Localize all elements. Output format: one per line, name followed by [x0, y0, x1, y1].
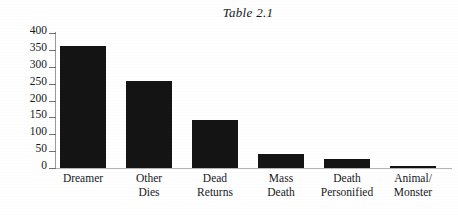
x-axis-category-label-line1: Dead [203, 172, 227, 184]
x-axis-category-label-line1: Mass [269, 172, 293, 184]
y-axis-tick-label: 150 [30, 109, 47, 121]
bar [126, 81, 172, 168]
y-axis-tick-mark [49, 134, 56, 135]
y-axis-tick-label: 350 [30, 42, 47, 54]
bar [60, 46, 106, 169]
bar-chart-figure: Table 2.1 400350300250200150100500 Dream… [0, 0, 458, 215]
x-axis-line [55, 168, 452, 169]
y-axis-tick-label: 250 [30, 76, 47, 88]
y-axis-tick-mark [49, 84, 56, 85]
bar-column [324, 33, 370, 168]
bar-column [60, 33, 106, 168]
x-axis-category-label-line1: Other [136, 172, 162, 184]
bar-column [126, 33, 172, 168]
y-axis-tick-label: 300 [30, 59, 47, 71]
y-axis-tick-label: 0 [41, 160, 47, 172]
chart-title: Table 2.1 [0, 5, 458, 21]
y-axis-tick-mark [49, 67, 56, 68]
y-axis-tick-label: 100 [30, 126, 47, 138]
bar [324, 159, 370, 168]
y-axis-tick-mark [49, 101, 56, 102]
y-axis-tick-label: 400 [30, 25, 47, 37]
bar-column [258, 33, 304, 168]
y-axis-tick-mark [49, 33, 56, 34]
bar-column [192, 33, 238, 168]
x-axis-category-label-line2: Monster [365, 186, 458, 200]
y-axis-tick-mark [49, 151, 56, 152]
x-axis-category-label-line1: Death [333, 172, 360, 184]
bar [390, 166, 436, 168]
bar-column [390, 33, 436, 168]
x-axis-category-label: Animal/Monster [365, 172, 458, 199]
x-axis-category-label-line1: Animal/ [394, 172, 432, 184]
bar [258, 154, 304, 169]
x-axis-category-label-line1: Dreamer [63, 172, 103, 184]
bar [192, 120, 238, 168]
y-axis-tick-mark [49, 50, 56, 51]
y-axis-tick-mark [49, 168, 56, 169]
y-axis-tick-label: 50 [36, 143, 48, 155]
y-axis-tick-mark [49, 117, 56, 118]
y-axis-tick-label: 200 [30, 93, 47, 105]
